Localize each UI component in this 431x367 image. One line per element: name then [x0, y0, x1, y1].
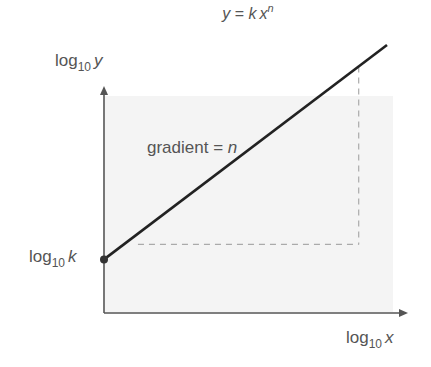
x-label-base: 10	[369, 337, 383, 351]
k-label-var: k	[68, 247, 78, 266]
diagram: y = kxn log10y log10k log10x gradient = …	[0, 0, 431, 367]
gradient-text: gradient =	[147, 138, 228, 157]
title-eq: =	[230, 5, 248, 22]
gradient-var: n	[228, 138, 237, 157]
intercept-label: log10k	[29, 247, 78, 270]
title-k: k	[249, 5, 258, 22]
title: y = kxn	[221, 2, 273, 22]
y-label-base: 10	[78, 60, 92, 74]
x-label-log: log	[346, 328, 369, 347]
y-label-log: log	[55, 51, 78, 70]
shaded-region	[105, 96, 393, 312]
y-axis-label: log10y	[55, 51, 104, 74]
y-label-var: y	[93, 51, 104, 70]
k-label-base: 10	[52, 256, 66, 270]
x-axis-label: log10x	[346, 328, 394, 351]
k-label-log: log	[29, 247, 52, 266]
gradient-label: gradient = n	[147, 138, 237, 157]
intercept-point	[100, 255, 108, 263]
x-label-var: x	[384, 328, 394, 347]
title-exponent: n	[268, 2, 274, 14]
